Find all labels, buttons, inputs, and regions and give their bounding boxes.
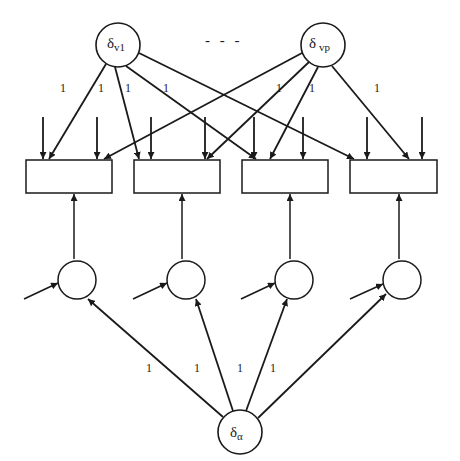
path-diagram: δv1 δvp δα - - - 1 1 1 1 1 1 1 1 1 1 1	[0, 0, 460, 461]
latent-circle-1	[58, 261, 96, 299]
mid-nodes	[58, 261, 421, 299]
coef-label: 1	[146, 361, 152, 375]
coef-label: 1	[237, 361, 243, 375]
coef-label: 1	[163, 81, 169, 95]
edge-vp-box4	[332, 66, 409, 159]
edge-alpha-c2	[196, 299, 233, 411]
edge-vp-box1	[104, 53, 302, 159]
coef-label: 1	[309, 81, 315, 95]
edge-v1-box4	[139, 53, 354, 159]
latent-circle-3	[275, 261, 313, 299]
latent-circle-4	[383, 261, 421, 299]
observed-box-1	[26, 160, 112, 193]
coef-label: 1	[60, 81, 66, 95]
observed-box-4	[350, 160, 437, 193]
edge-alpha-c3	[246, 299, 287, 411]
bottom-coefficient-labels: 1 1 1 1	[146, 361, 276, 375]
edges-bottom	[88, 294, 386, 418]
edges-top	[43, 53, 422, 159]
observed-box-3	[242, 160, 328, 193]
coef-label: 1	[98, 81, 104, 95]
disturbance-arrow-1	[24, 283, 58, 299]
disturbance-arrow-2	[133, 283, 167, 299]
coef-label: 1	[125, 81, 131, 95]
edge-alpha-c4	[258, 294, 386, 418]
coef-label: 1	[194, 361, 200, 375]
boxes	[26, 160, 437, 193]
coef-label: 1	[276, 81, 282, 95]
observed-box-2	[134, 160, 220, 193]
coef-label: 1	[270, 361, 276, 375]
coef-label: 1	[374, 81, 380, 95]
disturbance-arrow-3	[241, 283, 275, 299]
latent-circle-2	[167, 261, 205, 299]
disturbance-arrow-4	[350, 284, 383, 299]
ellipsis: - - -	[205, 32, 243, 48]
